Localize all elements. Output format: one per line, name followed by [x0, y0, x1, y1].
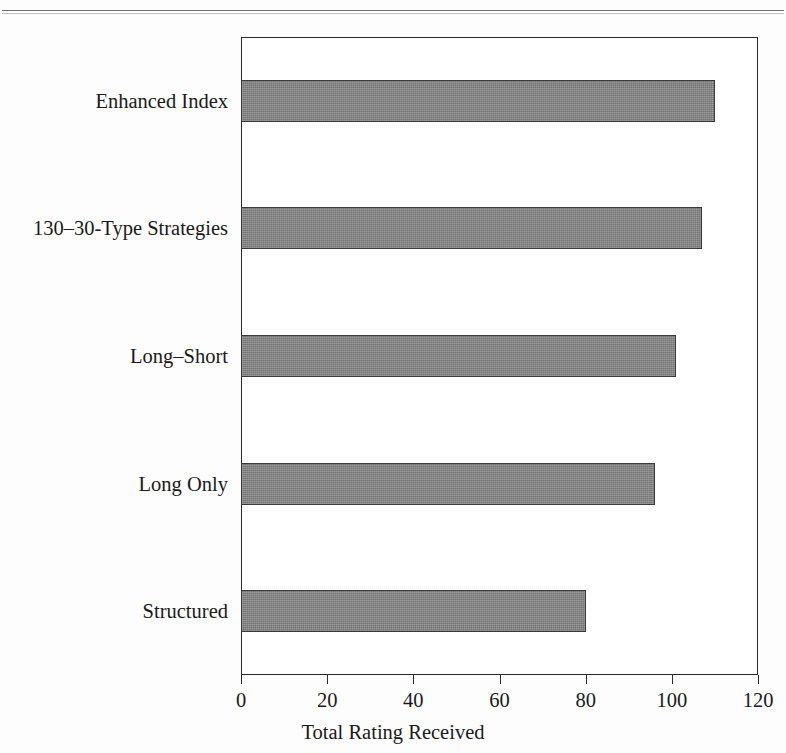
x-axis-tick-label-80: 80 — [575, 690, 596, 711]
y-axis-label-structured: Structured — [0, 601, 228, 622]
bar-long-only — [241, 463, 655, 505]
x-axis-tick-0 — [241, 675, 242, 684]
x-axis-tick-60 — [500, 675, 501, 684]
bar-long-short — [241, 335, 676, 377]
x-axis-tick-label-20: 20 — [317, 690, 338, 711]
bar-chart-figure: Enhanced Index 130–30-Type Strategies Lo… — [0, 0, 786, 753]
x-axis-title: Total Rating Received — [0, 722, 786, 743]
y-axis-label-long-only: Long Only — [0, 474, 228, 495]
page-header-rule-shadow — [2, 13, 784, 14]
x-axis-tick-80 — [586, 675, 587, 684]
x-axis-tick-120 — [758, 675, 759, 684]
x-axis-tick-label-120: 120 — [743, 690, 774, 711]
x-axis-tick-label-100: 100 — [656, 690, 687, 711]
x-axis-tick-100 — [672, 675, 673, 684]
x-axis-tick-label-40: 40 — [403, 690, 424, 711]
bars-layer — [241, 37, 758, 675]
x-axis-tick-40 — [413, 675, 414, 684]
x-axis-tick-label-60: 60 — [489, 690, 510, 711]
page-header-rule — [2, 10, 784, 11]
bar-structured — [241, 590, 586, 632]
y-axis-label-130-30-type-strategies: 130–30-Type Strategies — [0, 218, 228, 239]
bar-130-30-type-strategies — [241, 207, 702, 249]
x-axis-tick-label-0: 0 — [236, 690, 246, 711]
bar-enhanced-index — [241, 80, 715, 122]
x-axis-tick-20 — [327, 675, 328, 684]
y-axis-label-enhanced-index: Enhanced Index — [0, 91, 228, 112]
y-axis-label-long-short: Long–Short — [0, 346, 228, 367]
